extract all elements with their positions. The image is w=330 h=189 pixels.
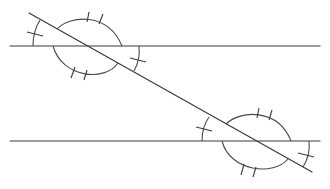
upper-obtuse-bottom-tick-2 [84, 70, 87, 80]
upper-obtuse-top-tick-1 [87, 12, 89, 22]
parallel-lines-transversal-diagram [0, 0, 330, 189]
lower-obtuse-arc-bottom [222, 141, 288, 169]
upper-acute-arc-right [134, 46, 139, 71]
lower-obtuse-top-tick-1 [257, 108, 259, 118]
transversal-line [29, 13, 312, 172]
lower-obtuse-bottom-tick-1 [241, 164, 244, 175]
lower-acute-right-tick [298, 153, 314, 157]
upper-obtuse-arc-bottom [53, 46, 118, 74]
lower-obtuse-arc-top [226, 114, 291, 141]
upper-obtuse-arc-top [57, 19, 122, 46]
lower-intersection-angles [196, 108, 314, 177]
upper-acute-arc-left [33, 20, 40, 46]
